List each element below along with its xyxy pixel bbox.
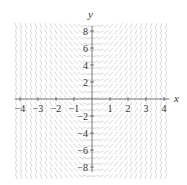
slope-segment [150, 41, 152, 47]
slope-segment [155, 59, 157, 65]
slope-segment [30, 83, 32, 89]
slope-segment [104, 168, 109, 172]
slope-segment [30, 101, 32, 107]
slope-segment [150, 161, 152, 167]
slope-segment [125, 71, 128, 76]
slope-segment [50, 125, 53, 130]
slope-segment [119, 29, 122, 34]
slope-segment [69, 132, 73, 136]
slope-segment [109, 48, 113, 52]
slope-segment [165, 173, 166, 179]
slope-segment [150, 71, 152, 77]
slope-segment [98, 55, 103, 58]
slope-segment [135, 53, 137, 59]
slope-segment [114, 54, 118, 59]
slope-segment [104, 84, 109, 88]
slope-segment [98, 49, 103, 52]
slope-segment [140, 173, 142, 179]
slope-segment [155, 41, 157, 47]
slope-segment [74, 36, 79, 40]
slope-segment [69, 162, 73, 166]
slope-segment [78, 175, 83, 178]
slope-segment [40, 143, 42, 149]
y-axis-label: y [87, 8, 93, 20]
slope-segment [74, 156, 79, 160]
slope-segment [40, 161, 42, 167]
slope-segment [15, 149, 16, 155]
slope-segment [45, 173, 47, 179]
slope-segment [160, 167, 162, 173]
slope-segment [64, 102, 68, 107]
slope-segment [145, 29, 147, 35]
slope-segment [130, 77, 133, 82]
slope-segment [165, 149, 166, 155]
slope-segment [74, 84, 79, 88]
slope-segment [45, 131, 47, 137]
slope-segment [135, 65, 137, 71]
slope-segment [145, 23, 147, 29]
slope-segment [145, 155, 147, 161]
slope-segment [35, 155, 37, 161]
slope-segment [104, 54, 109, 58]
slope-segment [165, 23, 166, 29]
slope-segment [104, 114, 109, 118]
slope-segment [25, 173, 27, 179]
slope-segment [98, 37, 103, 40]
slope-segment [150, 83, 152, 89]
slope-segment [25, 53, 27, 59]
x-axis-label: x [173, 92, 179, 104]
slope-segment [35, 65, 37, 71]
slope-segment [15, 53, 16, 59]
slope-segment [69, 138, 73, 142]
slope-segment [130, 23, 133, 28]
slope-segment [74, 138, 79, 142]
slope-segment [55, 59, 58, 64]
slope-segment [35, 173, 37, 179]
slope-segment [45, 77, 47, 83]
slope-segment [150, 149, 152, 155]
slope-segment [45, 47, 47, 53]
slope-segment [55, 47, 58, 52]
slope-segment [59, 89, 62, 94]
slope-segment [45, 59, 47, 65]
slope-segment [160, 143, 162, 149]
slope-segment [69, 66, 73, 70]
slope-segment [25, 23, 27, 29]
slope-segment [109, 42, 113, 46]
slope-segment [15, 131, 16, 137]
slope-segment [114, 48, 118, 53]
slope-segment [15, 35, 16, 41]
slope-segment [114, 84, 118, 89]
slope-segment [155, 65, 157, 71]
slope-segment [25, 107, 27, 113]
slope-segment [98, 25, 103, 28]
slope-segment [165, 167, 166, 173]
slope-segment [64, 90, 68, 95]
slope-segment [125, 131, 128, 136]
slope-segment [30, 77, 32, 83]
slope-segment [59, 161, 62, 166]
slope-segment [140, 23, 142, 29]
slope-segment [155, 167, 157, 173]
slope-segment [35, 77, 37, 83]
slope-segment [104, 144, 109, 148]
slope-segment [135, 95, 137, 101]
x-tick-label: −2 [51, 103, 62, 114]
slope-segment [140, 89, 142, 95]
slope-segment [165, 131, 166, 137]
slope-segment [50, 161, 53, 166]
slope-segment [145, 77, 147, 83]
slope-segment [119, 65, 122, 70]
slope-segment [125, 119, 128, 124]
slope-segment [104, 42, 109, 46]
slope-segment [135, 23, 137, 29]
slope-segment [145, 173, 147, 179]
slope-segment [64, 66, 68, 71]
slope-segment [25, 89, 27, 95]
slope-segment [135, 101, 137, 107]
slope-segment [155, 131, 157, 137]
slope-segment [69, 42, 73, 46]
slope-segment [140, 161, 142, 167]
slope-segment [114, 66, 118, 71]
slope-segment [25, 113, 27, 119]
